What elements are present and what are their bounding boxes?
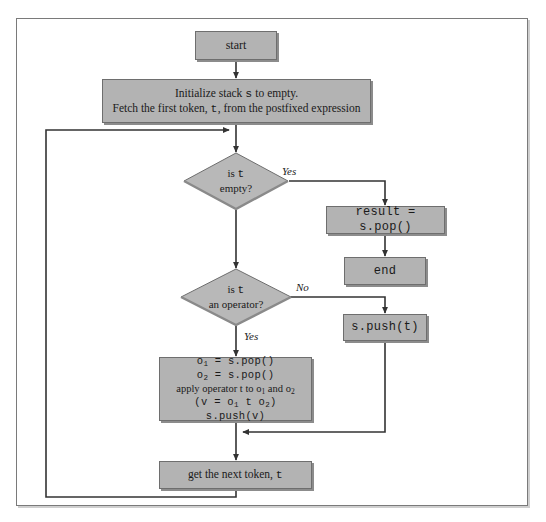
flowchart-canvas: start Initialize stack s to empty. Fetch…	[0, 0, 546, 522]
node-initialize-text: Initialize stack s to empty. Fetch the f…	[103, 86, 370, 116]
node-start-label: start	[196, 38, 276, 53]
edge-label-empty-yes: Yes	[282, 165, 296, 177]
apply-line4-b: t o	[239, 396, 265, 408]
apply-line1: o1 = s.pop()	[160, 355, 311, 369]
apply-line3-a: apply operator t to o	[176, 383, 261, 394]
apply-line4-c: )	[270, 396, 277, 408]
node-initialize[interactable]: Initialize stack s to empty. Fetch the f…	[102, 79, 371, 123]
initialize-line2-pre: Fetch the first token,	[112, 102, 210, 114]
next-token-mono: t	[276, 468, 283, 481]
node-initialize-line1: Initialize stack s to empty.	[103, 86, 370, 101]
apply-line4: (v = o1 t o2)	[160, 396, 311, 410]
node-is-operator[interactable]: is t an operator?	[180, 268, 292, 326]
apply-line2-b: = s.pop()	[208, 369, 274, 381]
apply-line1-b: = s.pop()	[208, 355, 274, 367]
node-push-token-label: s.push(t)	[344, 320, 426, 335]
apply-line3-sub2: 2	[291, 387, 295, 396]
node-result-pop[interactable]: result = s.pop()	[326, 206, 445, 234]
edge-label-operator-yes: Yes	[244, 330, 258, 342]
node-next-token-text: get the next token, t	[160, 467, 311, 482]
edge-label-operator-no: No	[296, 281, 309, 293]
node-apply-operator[interactable]: o1 = s.pop() o2 = s.pop() apply operator…	[159, 357, 312, 421]
apply-line2: o2 = s.pop()	[160, 369, 311, 383]
apply-line3: apply operator t to o1 and o2	[160, 383, 311, 396]
node-result-pop-label: result = s.pop()	[327, 205, 444, 234]
node-initialize-line2: Fetch the first token, t, from the postf…	[103, 101, 370, 116]
apply-line4-a: (v = o	[194, 396, 234, 408]
node-end-label: end	[345, 264, 425, 279]
node-push-token[interactable]: s.push(t)	[343, 314, 427, 341]
next-token-pre: get the next token,	[188, 468, 276, 480]
apply-line5: s.push(v)	[160, 410, 311, 423]
initialize-line1-pre: Initialize stack	[175, 87, 245, 99]
apply-line3-b: and o	[265, 383, 291, 394]
node-is-empty[interactable]: is t empty?	[183, 152, 289, 210]
initialize-line2-post: , from the postfixed expression	[218, 102, 361, 114]
node-start[interactable]: start	[195, 31, 277, 60]
node-apply-operator-text: o1 = s.pop() o2 = s.pop() apply operator…	[160, 355, 311, 423]
node-end[interactable]: end	[344, 257, 426, 285]
initialize-line1-post: to empty.	[252, 87, 298, 99]
initialize-line2-mono: t	[211, 102, 218, 115]
node-next-token[interactable]: get the next token, t	[159, 461, 312, 489]
